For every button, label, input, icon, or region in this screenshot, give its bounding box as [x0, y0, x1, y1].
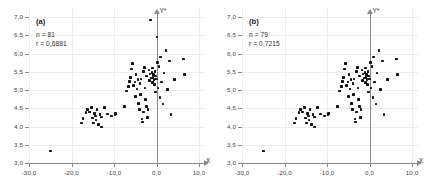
- scatter-point: [96, 108, 99, 111]
- scatter-point: [134, 81, 137, 84]
- scatter-point: [352, 93, 355, 96]
- y-axis-label: Y*: [160, 7, 167, 14]
- y-axis-tick: [25, 163, 29, 164]
- scatter-point: [301, 111, 304, 114]
- y-axis-tick-label: 4,0: [0, 123, 23, 130]
- scatter-point: [369, 61, 372, 64]
- scatter-point: [135, 73, 138, 76]
- scatter-point: [183, 73, 186, 76]
- scatter-point: [371, 65, 374, 68]
- gridline-horizontal: [29, 17, 205, 18]
- y-axis-tick-label: 6,0: [213, 50, 236, 57]
- scatter-point: [323, 115, 326, 118]
- sample-size-annotation: n = 79: [249, 31, 268, 38]
- scatter-point: [138, 108, 141, 111]
- scatter-point: [293, 122, 296, 125]
- scatter-panel-b: -30,0-20,0-10,00,010,03,03,54,04,55,05,5…: [213, 0, 425, 189]
- gridline-vertical: [285, 8, 286, 163]
- scatter-point: [139, 93, 142, 96]
- y-axis-tick: [25, 90, 29, 91]
- gridline-horizontal: [242, 72, 418, 73]
- gridline-horizontal: [242, 90, 418, 91]
- gridline-vertical: [114, 8, 115, 163]
- scatter-point: [298, 111, 301, 114]
- figure-canvas: -30,0-20,0-10,00,010,03,03,54,04,55,05,5…: [0, 0, 425, 189]
- scatter-point: [160, 81, 163, 84]
- scatter-point: [366, 83, 369, 86]
- gridline-vertical: [242, 8, 243, 163]
- scatter-point: [155, 78, 158, 81]
- scatter-point: [142, 111, 145, 114]
- scatter-point: [313, 126, 316, 129]
- scatter-point: [347, 95, 350, 98]
- scatter-point: [381, 60, 384, 63]
- scatter-point: [137, 102, 140, 105]
- x-axis-tick: [114, 163, 115, 167]
- scatter-point: [358, 105, 361, 108]
- scatter-point: [307, 115, 310, 118]
- y-axis-tick-label: 3,0: [213, 159, 236, 166]
- scatter-point: [140, 78, 143, 81]
- x-axis-label: X: [206, 157, 210, 164]
- x-axis-tick-label: -10,0: [307, 169, 347, 176]
- scatter-point: [103, 106, 106, 109]
- scatter-point: [316, 106, 319, 109]
- scatter-point: [353, 78, 356, 81]
- x-axis-tick: [29, 163, 30, 167]
- y-axis-tick-label: 7,0: [0, 13, 23, 20]
- y-axis-tick: [238, 35, 242, 36]
- scatter-point: [170, 113, 173, 116]
- y-axis-tick-label: 3,5: [0, 141, 23, 148]
- x-axis-tick: [327, 163, 328, 167]
- gridline-horizontal: [29, 90, 205, 91]
- gridline-horizontal: [29, 35, 205, 36]
- scatter-point: [159, 56, 162, 59]
- gridline-vertical: [412, 8, 413, 163]
- scatter-point: [396, 73, 399, 76]
- scatter-point: [132, 84, 135, 87]
- scatter-point: [146, 116, 149, 119]
- scatter-point: [386, 78, 389, 81]
- scatter-point: [145, 75, 148, 78]
- scatter-point: [100, 116, 103, 119]
- scatter-point: [319, 113, 322, 116]
- scatter-point: [378, 49, 381, 52]
- scatter-point: [156, 61, 159, 64]
- y-axis-tick-label: 6,0: [0, 50, 23, 57]
- scatter-point: [308, 119, 311, 122]
- scatter-point: [136, 88, 139, 91]
- scatter-point: [348, 73, 351, 76]
- scatter-point: [358, 75, 361, 78]
- x-axis-tick-label: 0,0: [137, 169, 177, 176]
- scatter-point: [85, 111, 88, 114]
- scatter-point: [147, 108, 150, 111]
- scatter-point: [336, 105, 339, 108]
- scatter-point: [166, 88, 169, 91]
- gridline-horizontal: [242, 145, 418, 146]
- scatter-point: [162, 103, 165, 106]
- scatter-point: [379, 88, 382, 91]
- scatter-point: [303, 106, 306, 109]
- scatter-point: [182, 58, 185, 61]
- scatter-point: [354, 121, 357, 124]
- y-axis-tick-label: 5,0: [213, 86, 236, 93]
- x-axis-tick: [157, 163, 158, 167]
- y-axis-tick-label: 6,5: [0, 31, 23, 38]
- scatter-point: [343, 68, 346, 71]
- scatter-point: [360, 108, 363, 111]
- y-axis-tick: [25, 54, 29, 55]
- scatter-point: [383, 113, 386, 116]
- scatter-point: [262, 150, 265, 153]
- gridline-vertical: [29, 8, 30, 163]
- scatter-point: [355, 111, 358, 114]
- scatter-point: [359, 116, 362, 119]
- scatter-point: [355, 70, 358, 73]
- y-axis-tick: [238, 72, 242, 73]
- scatter-point: [368, 78, 371, 81]
- scatter-point: [139, 82, 142, 85]
- scatter-point: [130, 68, 133, 71]
- gridline-vertical: [72, 8, 73, 163]
- x-axis-line: [29, 163, 205, 164]
- scatter-point: [395, 58, 398, 61]
- scatter-point: [129, 76, 132, 79]
